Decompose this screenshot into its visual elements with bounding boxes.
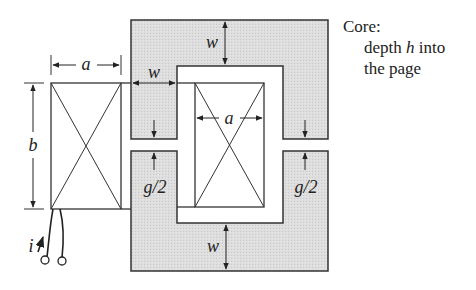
svg-text:g/2: g/2 <box>294 177 317 197</box>
svg-text:a: a <box>225 108 234 128</box>
svg-text:w: w <box>206 32 218 52</box>
note-title: Core: <box>343 16 445 37</box>
terminal-2 <box>58 257 66 265</box>
dim-coil-width: a <box>51 54 121 75</box>
note-line-2: the page <box>343 58 445 79</box>
svg-text:w: w <box>207 236 219 256</box>
svg-text:w: w <box>148 62 160 82</box>
current-arrow <box>38 237 43 252</box>
window-coil <box>177 83 264 207</box>
left-coil <box>51 83 131 209</box>
dim-coil-height: b <box>24 83 44 209</box>
svg-text:i: i <box>28 236 33 256</box>
terminal-1 <box>41 256 49 264</box>
svg-text:g/2: g/2 <box>143 177 166 197</box>
svg-text:a: a <box>82 54 91 74</box>
core-note: Core: depth h into the page <box>343 16 445 79</box>
note-line-1: depth h into <box>343 37 445 58</box>
coil-leads: i <box>28 209 66 265</box>
svg-text:b: b <box>29 135 38 155</box>
